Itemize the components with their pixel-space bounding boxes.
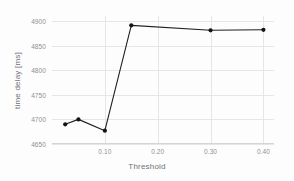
- data-point: [129, 23, 133, 27]
- y-axis-tick-label: 4900: [2, 17, 46, 24]
- data-series: [52, 16, 274, 144]
- y-axis-tick-label: 4800: [2, 67, 46, 74]
- y-axis-tick-label: 4850: [2, 42, 46, 49]
- data-point: [208, 28, 212, 32]
- y-axis-tick-label: 4650: [2, 141, 46, 148]
- data-point: [63, 122, 67, 126]
- x-axis-tick-label: 0.10: [98, 148, 111, 155]
- data-point: [103, 129, 107, 133]
- x-axis-tick-label: 0.40: [257, 148, 270, 155]
- chart-screenshot: time delay [ms] 465047004750480048504900…: [0, 0, 294, 181]
- y-axis-tick-label: 4700: [2, 116, 46, 123]
- gridline-horizontal: [52, 144, 274, 145]
- data-point: [76, 117, 80, 121]
- series-markers: [63, 23, 265, 133]
- data-point: [261, 28, 265, 32]
- x-axis-tick-label: 0.30: [204, 148, 217, 155]
- y-axis-tick-label: 4750: [2, 91, 46, 98]
- plot-area: [52, 16, 274, 144]
- x-axis-tick-label: 0.20: [151, 148, 164, 155]
- y-axis-title: time delay [ms]: [13, 52, 22, 109]
- x-axis-title: Threshold: [0, 162, 294, 171]
- series-line: [65, 25, 263, 130]
